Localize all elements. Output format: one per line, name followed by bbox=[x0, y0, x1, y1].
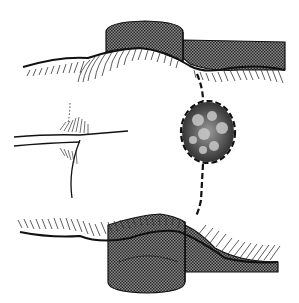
lesion bbox=[181, 101, 235, 163]
upper-retractor bbox=[106, 21, 285, 70]
illustration-canvas bbox=[0, 0, 299, 303]
anal-cleft bbox=[14, 103, 128, 198]
surgical-illustration bbox=[0, 0, 299, 303]
lower-retractor bbox=[108, 214, 278, 293]
